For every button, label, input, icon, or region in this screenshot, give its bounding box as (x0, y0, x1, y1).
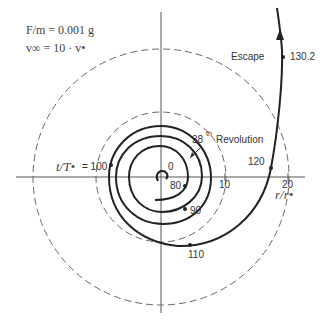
revolution-number: 38 (192, 135, 203, 145)
marker-110 (188, 243, 192, 247)
escape-arrow-icon (276, 29, 284, 40)
time-label-110: 110 (188, 250, 204, 260)
marker-130 (281, 55, 285, 59)
marker-90 (183, 207, 187, 211)
force-parameter: F/m = 0.001 g (26, 24, 94, 36)
y-axis-label: t/T• (56, 160, 75, 173)
marker-120 (269, 166, 273, 170)
time-label-90: 90 (190, 206, 201, 216)
time-label-80: 80 (170, 181, 181, 191)
tick-label-10: 10 (219, 180, 230, 190)
revolution-word: Revolution (216, 135, 263, 145)
time-label-120: 120 (248, 157, 265, 167)
velocity-parameter: v∞ = 10 · v• (26, 42, 86, 54)
revolution-superscript: th (206, 130, 212, 137)
escape-label: Escape (231, 52, 264, 62)
marker-100 (109, 163, 113, 167)
spiral-trajectory-diagram: F/m = 0.001 g v∞ = 10 · v• r/r• t/T• 10 … (0, 0, 328, 323)
time-label-130: 130.2 (290, 52, 315, 62)
tick-label-20: 20 (282, 180, 293, 190)
time-label-0: 0 (168, 162, 174, 172)
marker-80 (183, 184, 187, 188)
time-label-100: = 100 (82, 162, 107, 172)
